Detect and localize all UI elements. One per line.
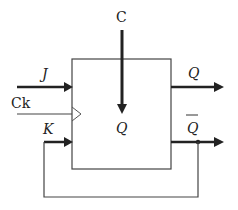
k-label: K <box>42 121 55 137</box>
c-label: C <box>116 9 127 25</box>
jk-flipflop-diagram: C Q J Ck K Q Q <box>0 0 238 210</box>
internal-q-label: Q <box>116 120 128 136</box>
j-input-arrow <box>17 82 73 92</box>
q-output-label: Q <box>188 65 200 81</box>
clock-triangle-icon <box>72 107 81 121</box>
k-input-arrow <box>44 137 73 147</box>
j-label: J <box>39 66 49 82</box>
q-bar-output-label: Q <box>187 120 199 136</box>
c-input-arrow <box>117 30 127 114</box>
ck-label: Ck <box>11 95 31 111</box>
q-output-arrow <box>171 82 224 92</box>
